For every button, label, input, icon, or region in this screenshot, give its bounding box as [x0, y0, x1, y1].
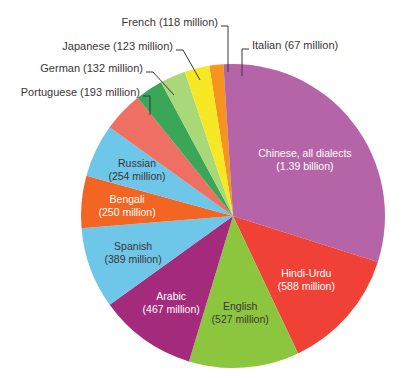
callout-label-french: French (118 million): [122, 16, 218, 28]
pie-slices-group: [81, 64, 385, 368]
callout-label-italian: Italian (67 million): [252, 39, 338, 51]
callout-label-german: German (132 million): [40, 62, 143, 74]
callout-label-japanese: Japanese (123 million): [62, 40, 173, 52]
pie-chart-figure: Italian (67 million) French (118 million…: [0, 0, 417, 378]
pie-chart-svg: Italian (67 million) French (118 million…: [0, 0, 417, 378]
callout-label-portuguese: Portuguese (193 million): [21, 86, 140, 98]
